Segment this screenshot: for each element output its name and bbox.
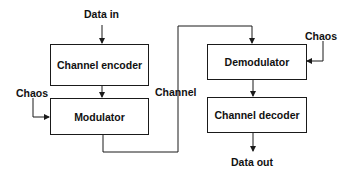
demodulator-block: Demodulator: [207, 44, 307, 80]
modulator-label: Modulator: [74, 111, 125, 123]
chaos-rx-label: Chaos: [305, 30, 337, 42]
channel-decoder-block: Channel decoder: [207, 97, 307, 133]
arrow-chaos-to-demodulator: [307, 41, 323, 61]
modulator-block: Modulator: [50, 98, 149, 135]
channel-label: Channel: [155, 86, 196, 98]
channel-encoder-label: Channel encoder: [57, 59, 142, 71]
chaos-tx-label: Chaos: [16, 87, 48, 99]
data-in-label: Data in: [84, 8, 119, 20]
channel-encoder-block: Channel encoder: [50, 44, 149, 86]
data-out-label: Data out: [231, 156, 273, 168]
demodulator-label: Demodulator: [225, 56, 290, 68]
arrow-chaos-to-modulator: [33, 98, 49, 117]
channel-decoder-label: Channel decoder: [214, 109, 299, 121]
